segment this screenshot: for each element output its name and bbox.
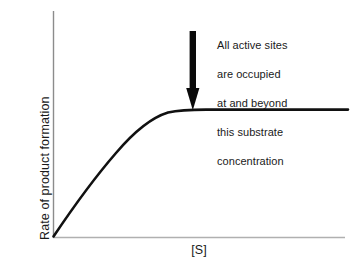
y-axis-label: Rate of product formation bbox=[34, 30, 56, 240]
annotation-line-3: at and beyond bbox=[217, 96, 349, 111]
annotation-line-4: this substrate bbox=[217, 125, 349, 140]
annotation-line-2: are occupied bbox=[217, 67, 349, 82]
annotation-line-5: concentration bbox=[217, 154, 349, 169]
annotation-line-1: All active sites bbox=[217, 38, 349, 53]
saturation-annotation: All active sites are occupied at and bey… bbox=[217, 23, 349, 184]
x-axis-label: [S] bbox=[53, 240, 345, 260]
saturation-arrow-icon bbox=[186, 31, 199, 110]
enzyme-kinetics-figure: Rate of product formation [S] All active… bbox=[0, 0, 353, 277]
